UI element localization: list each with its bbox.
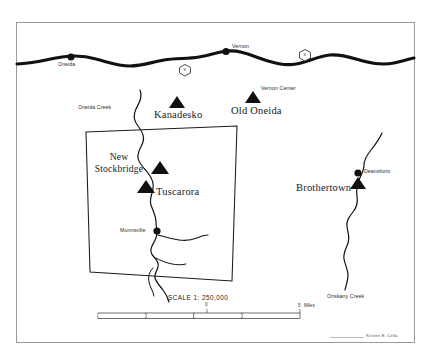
scale-tick-end: 5 xyxy=(298,304,301,309)
scale-text: SCALE 1: 250,000 xyxy=(168,295,228,301)
label-vernon-center: Vernon Center xyxy=(261,86,296,91)
label-munnsville: Munnsville xyxy=(120,228,146,233)
scale-units-label: Miles xyxy=(304,304,315,309)
historic-map: Oneida Vernon Munnsville Deansboro Verno… xyxy=(0,0,430,351)
label-brothertown: Brothertown xyxy=(296,183,351,194)
label-oneida: Oneida xyxy=(58,62,75,67)
label-tuscarora: Tuscarora xyxy=(156,187,199,198)
label-deansboro: Deansboro xyxy=(364,169,390,174)
label-kanadesko: Kanadesko xyxy=(154,110,202,121)
label-oriskany-creek: Oriskany Creek xyxy=(327,294,364,299)
town-dot-vernon xyxy=(222,48,229,55)
label-old-oneida: Old Oneida xyxy=(231,106,282,117)
label-new-stockbridge-line1: New xyxy=(110,151,129,162)
label-new-stockbridge: New Stockbridge xyxy=(88,151,150,174)
shield-east-number: 5 xyxy=(304,53,306,57)
label-new-stockbridge-line2: Stockbridge xyxy=(95,163,144,174)
label-vernon: Vernon xyxy=(232,44,249,49)
town-dot-oneida xyxy=(68,54,75,61)
town-dot-deansboro xyxy=(354,169,361,176)
cartographer-credit: Kristen E. Cella xyxy=(366,334,398,338)
label-oneida-creek: Oneida Creek xyxy=(78,105,111,110)
scale-tick-zero: 0 xyxy=(205,303,208,308)
town-dot-munnsville xyxy=(153,227,160,234)
shield-west-number: 5 xyxy=(184,68,186,72)
